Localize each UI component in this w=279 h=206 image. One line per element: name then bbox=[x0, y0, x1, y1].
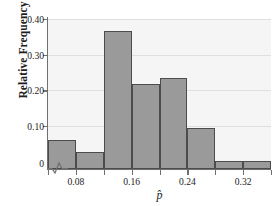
x-tick bbox=[48, 170, 49, 175]
histogram-bar bbox=[187, 128, 215, 169]
x-tick bbox=[187, 170, 188, 175]
x-tick-label: 0.24 bbox=[167, 176, 207, 187]
x-tick-label: 0.08 bbox=[56, 176, 96, 187]
x-tick-label: 0.32 bbox=[223, 176, 263, 187]
y-tick-label-0: 0 bbox=[4, 158, 44, 169]
histogram-bar bbox=[76, 152, 104, 169]
x-tick bbox=[215, 170, 216, 175]
histogram-bar bbox=[104, 31, 132, 168]
x-tick bbox=[132, 170, 133, 175]
y-tick-label-020: 0.20 bbox=[4, 85, 44, 96]
gridline-040 bbox=[48, 19, 271, 20]
x-tick bbox=[104, 170, 105, 175]
x-tick bbox=[160, 170, 161, 175]
histogram-bar bbox=[160, 78, 188, 168]
histogram-bar bbox=[243, 161, 271, 168]
histogram-bar bbox=[132, 84, 160, 168]
x-tick bbox=[243, 170, 244, 175]
y-tick-label-040: 0.40 bbox=[4, 14, 44, 25]
y-axis-line bbox=[47, 17, 48, 170]
gridline-030 bbox=[48, 55, 271, 56]
x-tick bbox=[271, 170, 272, 175]
histogram-bar bbox=[215, 161, 243, 168]
histogram-figure: Relative Frequency 0.40 0.30 0.20 0.10 0… bbox=[0, 0, 279, 206]
x-tick-label: 0.16 bbox=[112, 176, 152, 187]
y-tick-label-010: 0.10 bbox=[4, 121, 44, 132]
x-axis-title: p̂ bbox=[48, 188, 271, 203]
y-tick-label-030: 0.30 bbox=[4, 50, 44, 61]
axis-break-icon bbox=[48, 160, 68, 174]
x-tick bbox=[76, 170, 77, 175]
